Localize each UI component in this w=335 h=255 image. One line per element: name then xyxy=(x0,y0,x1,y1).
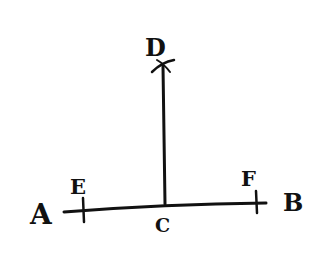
label-e: E xyxy=(70,174,86,199)
tick-f xyxy=(256,191,257,213)
tick-e xyxy=(83,198,84,222)
label-b: B xyxy=(283,188,303,217)
diagram-canvas: D A E C F B xyxy=(0,0,335,255)
label-f: F xyxy=(241,166,256,191)
label-a: A xyxy=(29,198,53,231)
line-cd xyxy=(163,66,165,204)
label-d: D xyxy=(145,33,166,62)
label-c: C xyxy=(155,214,170,236)
